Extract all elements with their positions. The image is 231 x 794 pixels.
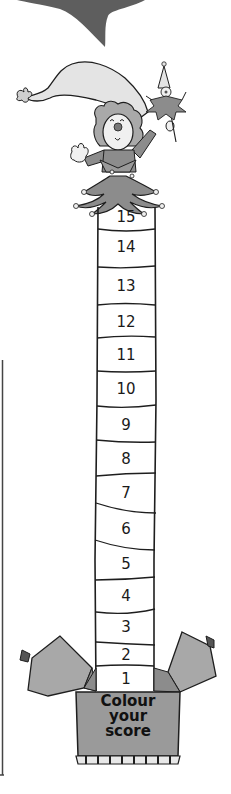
score-level-9[interactable]: 9: [96, 418, 156, 433]
score-level-10[interactable]: 10: [96, 382, 156, 397]
jester-puppet-stick: [146, 62, 186, 120]
score-level-8[interactable]: 8: [96, 452, 156, 467]
score-level-2[interactable]: 2: [96, 648, 156, 663]
score-level-11[interactable]: 11: [96, 348, 156, 363]
score-level-5[interactable]: 5: [96, 557, 156, 572]
label-line-3: score: [78, 724, 178, 739]
score-level-7[interactable]: 7: [96, 486, 156, 501]
speech-bubble-tail: [17, 0, 145, 47]
score-level-1[interactable]: 1: [96, 672, 156, 687]
score-level-4[interactable]: 4: [96, 589, 156, 604]
score-level-13[interactable]: 13: [96, 279, 156, 294]
score-level-14[interactable]: 14: [96, 240, 156, 255]
score-level-12[interactable]: 12: [96, 315, 156, 330]
score-level-3[interactable]: 3: [96, 620, 156, 635]
score-level-6[interactable]: 6: [96, 522, 156, 537]
colour-your-score-label: Colour your score: [78, 694, 178, 739]
jester-face: [103, 114, 133, 150]
score-level-15[interactable]: 15: [96, 210, 156, 225]
margin-rule: [0, 360, 4, 775]
